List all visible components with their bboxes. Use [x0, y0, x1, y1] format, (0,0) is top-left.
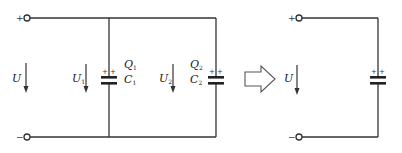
right-plus-label: + [288, 13, 296, 23]
right-circuit [296, 15, 378, 140]
q2-label: Q2 [190, 58, 203, 71]
source-voltage-arrow [24, 63, 29, 93]
right-voltage-arrow [295, 65, 300, 95]
u1-label: U1 [72, 72, 85, 85]
c1-label: C1 [124, 73, 136, 86]
equivalent-capacitor [370, 76, 386, 85]
c2-plus-marks: + + [209, 68, 223, 76]
right-plus-terminal [296, 15, 302, 21]
capacitor-c1 [101, 76, 117, 85]
c2-label: C2 [190, 73, 202, 86]
equivalent-arrow-icon [245, 66, 275, 92]
capacitor-c2 [208, 76, 224, 85]
minus-terminal [24, 134, 30, 140]
c1-plus-marks: + + [102, 68, 116, 76]
right-minus-label: − [288, 132, 296, 142]
u2-label: U2 [159, 72, 172, 85]
circuit-diagram: + + + + + − U U1 Q1 C1 U2 Q2 C2 + + + − [0, 0, 402, 153]
q1-label: Q1 [124, 58, 137, 71]
plus-terminal [24, 15, 30, 21]
plus-label: + [16, 13, 24, 23]
minus-label: − [16, 132, 24, 142]
source-voltage-label: U [12, 72, 22, 85]
right-voltage-label: U [284, 72, 294, 85]
right-minus-terminal [296, 134, 302, 140]
left-circuit [24, 15, 216, 140]
eq-cap-plus-marks: + + [371, 68, 385, 76]
